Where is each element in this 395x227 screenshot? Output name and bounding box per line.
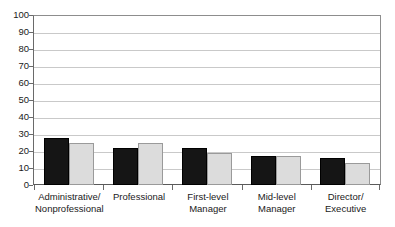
bar bbox=[69, 143, 94, 186]
y-axis-tick-marks bbox=[0, 15, 33, 185]
x-axis-category-label: Director/ Executive bbox=[311, 191, 380, 225]
y-axis-tick-mark bbox=[29, 185, 33, 186]
bar-chart: 0102030405060708090100 Administrative/ N… bbox=[0, 0, 395, 227]
bar bbox=[138, 143, 163, 185]
bar-group bbox=[242, 15, 311, 185]
x-axis-separators bbox=[34, 185, 380, 190]
x-axis-separator bbox=[34, 185, 35, 190]
x-axis-separator bbox=[311, 185, 312, 190]
bars-layer bbox=[34, 15, 380, 185]
x-axis-category-label: First-level Manager bbox=[174, 191, 243, 225]
bar bbox=[44, 138, 69, 185]
bar bbox=[276, 156, 301, 185]
x-axis-separator bbox=[242, 185, 243, 190]
bar bbox=[320, 158, 345, 185]
bar bbox=[345, 163, 370, 185]
x-axis-category-label: Professional bbox=[105, 191, 174, 225]
x-axis-category-labels: Administrative/ NonprofessionalProfessio… bbox=[34, 191, 380, 225]
x-axis-separator bbox=[172, 185, 173, 190]
bar bbox=[251, 156, 276, 185]
bar-group bbox=[34, 15, 103, 185]
bar bbox=[207, 153, 232, 185]
bar-group bbox=[311, 15, 380, 185]
x-axis-category-label: Administrative/ Nonprofessional bbox=[34, 191, 105, 225]
x-axis-category-label: Mid-level Manager bbox=[242, 191, 311, 225]
x-axis-separator bbox=[103, 185, 104, 190]
bar bbox=[113, 148, 138, 185]
x-axis-separator bbox=[379, 185, 380, 190]
bar bbox=[182, 148, 207, 185]
bar-group bbox=[103, 15, 172, 185]
bar-group bbox=[172, 15, 241, 185]
